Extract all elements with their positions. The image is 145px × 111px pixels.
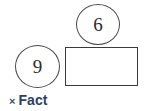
factor-circle-nine[interactable]: 9 (15, 45, 60, 88)
caption: × Fact (9, 92, 48, 108)
factor-circle-nine-value: 9 (33, 57, 43, 76)
product-rectangle-blank[interactable] (65, 47, 138, 86)
factor-circle-six[interactable]: 6 (76, 4, 120, 45)
caption-label: Fact (18, 92, 47, 108)
factor-circle-six-value: 6 (93, 15, 103, 34)
multiplication-sign-icon: × (9, 95, 15, 107)
diagram-canvas: 6 9 × Fact (0, 0, 145, 111)
